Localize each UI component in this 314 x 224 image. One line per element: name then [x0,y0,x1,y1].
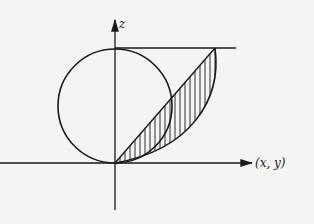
diagram-canvas: z (x, y) [0,0,314,224]
hatched-region [120,40,215,170]
xy-axis-label: (x, y) [255,156,286,170]
z-axis-label: z [118,17,126,31]
